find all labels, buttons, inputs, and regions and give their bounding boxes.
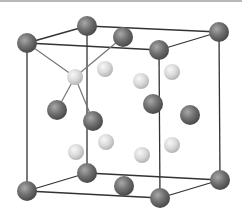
anion-sphere (164, 137, 180, 153)
anion-sphere (164, 64, 180, 80)
cation-sphere (180, 105, 200, 125)
anion-sphere (98, 134, 114, 150)
cell-edge (27, 191, 160, 198)
cell-edge (159, 50, 160, 198)
cation-sphere (17, 181, 37, 201)
unit-cell-diagram (0, 0, 242, 220)
cation-sphere (77, 16, 97, 36)
cell-edge (27, 43, 159, 50)
cell-edge (87, 173, 220, 180)
anion-sphere (134, 147, 150, 163)
cation-sphere (17, 33, 37, 53)
anion-sphere (67, 69, 83, 85)
anion-sphere (133, 73, 149, 89)
cation-sphere (210, 170, 230, 190)
cation-sphere (114, 176, 134, 196)
anion-sphere (68, 144, 84, 160)
cation-sphere (143, 94, 163, 114)
cation-sphere (150, 188, 170, 208)
cation-sphere (113, 27, 133, 47)
anion-sphere (97, 61, 113, 77)
cation-sphere (209, 22, 229, 42)
cell-edge (87, 26, 219, 32)
cell-edge (219, 32, 220, 180)
cation-sphere (149, 40, 169, 60)
cation-sphere (47, 100, 67, 120)
cation-sphere (83, 111, 103, 131)
cation-sphere (77, 163, 97, 183)
